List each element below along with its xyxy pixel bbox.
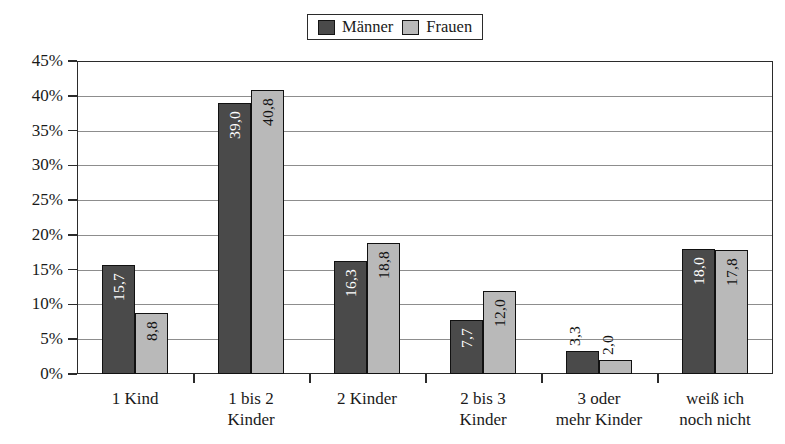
bar-männer: 18,0 (682, 249, 715, 374)
bar-value-label: 12,0 (492, 299, 508, 327)
bar-group: 39,040,8 (193, 61, 309, 374)
bar-männer: 15,7 (102, 265, 135, 374)
bar-group: 18,017,8 (657, 61, 773, 374)
bar-value-label: 15,7 (111, 273, 127, 301)
x-axis-label: 1 bis 2 Kinder (193, 388, 309, 431)
x-axis-tick (309, 374, 311, 383)
y-axis-tick (68, 234, 77, 236)
y-axis-tick (68, 130, 77, 132)
x-axis-tick (657, 374, 659, 383)
y-axis-tick (68, 269, 77, 271)
bar-frauen: 17,8 (715, 250, 748, 374)
bar-value-label: 2,0 (600, 335, 616, 355)
bar-value-label: 3,3 (567, 326, 583, 346)
bar-frauen: 18,8 (367, 243, 400, 374)
y-axis-tick (68, 199, 77, 201)
chart-legend: Männer Frauen (307, 14, 483, 40)
bar-value-label: 40,8 (260, 98, 276, 126)
y-axis-tick (68, 373, 77, 375)
legend-entry-frauen: Frauen (402, 19, 472, 36)
y-axis-label: 10% (32, 295, 63, 312)
x-axis-label: weiß ich noch nicht (657, 388, 773, 431)
x-axis-tick (425, 374, 427, 383)
y-axis-label: 0% (40, 365, 63, 382)
bar-frauen: 40,8 (251, 90, 284, 374)
y-axis-label: 20% (32, 226, 63, 243)
legend-swatch-frauen (402, 20, 419, 35)
y-axis-label: 25% (32, 191, 63, 208)
x-axis-tick (193, 374, 195, 383)
y-axis-tick (68, 304, 77, 306)
bar-value-label: 8,8 (144, 321, 160, 341)
bar-frauen: 8,8 (135, 313, 168, 374)
x-axis-label: 3 oder mehr Kinder (541, 388, 657, 431)
x-axis-label: 2 bis 3 Kinder (425, 388, 541, 431)
y-axis-tick (68, 60, 77, 62)
bars-layer: 15,78,839,040,816,318,87,712,03,32,018,0… (77, 61, 773, 374)
legend-label-frauen: Frauen (426, 19, 472, 36)
y-axis-label: 45% (32, 52, 63, 69)
bar-group: 3,32,0 (541, 61, 657, 374)
y-axis-label: 40% (32, 87, 63, 104)
bar-value-label: 39,0 (227, 111, 243, 139)
y-axis-tick (68, 338, 77, 340)
bar-group: 7,712,0 (425, 61, 541, 374)
bar-männer: 16,3 (334, 261, 367, 374)
bar-value-label: 16,3 (343, 269, 359, 297)
x-axis-tick (541, 374, 543, 383)
bar-männer (566, 351, 599, 374)
y-axis-label: 35% (32, 122, 63, 139)
legend-label-maenner: Männer (342, 19, 393, 36)
x-axis-label: 1 Kind (77, 388, 193, 409)
bar-value-label: 7,7 (459, 328, 475, 348)
bar-group: 15,78,8 (77, 61, 193, 374)
y-axis-label: 30% (32, 156, 63, 173)
y-axis-label: 15% (32, 261, 63, 278)
y-axis-tick (68, 95, 77, 97)
bar-männer: 39,0 (218, 103, 251, 374)
x-axis-label: 2 Kinder (309, 388, 425, 409)
bar-frauen: 12,0 (483, 291, 516, 374)
y-axis-tick (68, 165, 77, 167)
legend-entry-maenner: Männer (318, 19, 393, 36)
y-axis-label: 5% (40, 330, 63, 347)
bar-value-label: 18,0 (691, 257, 707, 285)
bar-männer: 7,7 (450, 320, 483, 374)
bar-group: 16,318,8 (309, 61, 425, 374)
legend-swatch-maenner (318, 20, 335, 35)
bar-value-label: 17,8 (724, 258, 740, 286)
bar-frauen (599, 360, 632, 374)
bar-value-label: 18,8 (376, 251, 392, 279)
